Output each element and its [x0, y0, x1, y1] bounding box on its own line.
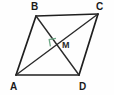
figure-canvas: [0, 0, 114, 95]
vertex-label-d: D: [79, 82, 86, 92]
vertex-label-a: A: [10, 82, 17, 92]
vertex-label-c: C: [96, 2, 103, 12]
diagonal-bd: [36, 16, 79, 75]
diagonals: [16, 14, 98, 75]
vertex-label-b: B: [31, 2, 38, 12]
side-ab: [16, 16, 36, 75]
side-bc: [36, 14, 98, 16]
point-label-m: M: [62, 41, 70, 50]
geometry-figure: B C D A M: [0, 0, 114, 95]
side-cd: [79, 14, 98, 75]
